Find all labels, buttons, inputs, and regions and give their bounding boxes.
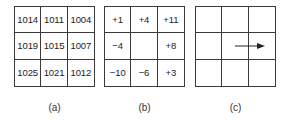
grid-b-cell-2-2: +3: [158, 60, 184, 86]
grid-b-cell-0-2: +11: [158, 7, 184, 33]
grid-c-cell-0-2: [249, 7, 275, 33]
right-arrow-icon: [235, 43, 265, 49]
grid-c-cell-2-2: [249, 60, 275, 86]
grid-c-cell-0-1: [222, 7, 248, 33]
panel-b-caption: (b): [104, 102, 185, 113]
grid-a-cell-0-2: 1004: [68, 7, 94, 33]
grid-a-cell-1-2: 1007: [68, 33, 94, 59]
grid-a-cell-1-1: 1015: [41, 33, 67, 59]
panel-a-caption: (a): [14, 102, 95, 113]
grid-b-cell-0-1: +4: [131, 7, 157, 33]
grid-c-cell-2-0: [196, 60, 222, 86]
grid-b-cell-1-1: [131, 33, 157, 59]
grid-a-cell-2-0: 1025: [15, 60, 41, 86]
grid-c-cell-1-0: [196, 33, 222, 59]
grid-b-cell-2-1: −6: [131, 60, 157, 86]
grid-b-cell-1-0: −4: [105, 33, 131, 59]
grid-a-cell-0-0: 1014: [15, 7, 41, 33]
grid-b-cell-0-0: +1: [105, 7, 131, 33]
grid-a-cell-1-0: 1019: [15, 33, 41, 59]
grid-b-cell-1-2: +8: [158, 33, 184, 59]
grid-c-cell-2-1: [222, 60, 248, 86]
grid-a-cell-2-1: 1021: [41, 60, 67, 86]
grid-a-cell-0-1: 1011: [41, 7, 67, 33]
panel-c-caption: (c): [195, 102, 276, 113]
grid-a-cell-2-2: 1012: [68, 60, 94, 86]
difference-grid-b: +1 +4 +11 −4 +8 −10 −6 +3: [104, 6, 185, 87]
grid-b-cell-2-0: −10: [105, 60, 131, 86]
value-grid-a: 1014 1011 1004 1019 1015 1007 1025 1021 …: [14, 6, 95, 87]
grid-c-cell-0-0: [196, 7, 222, 33]
